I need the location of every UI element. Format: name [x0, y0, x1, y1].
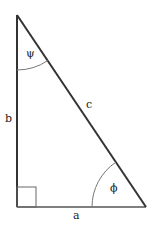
right-triangle-diagram: ψ b c ϕ a	[0, 0, 155, 227]
label-phi: ϕ	[110, 182, 118, 195]
label-psi: ψ	[26, 47, 35, 60]
label-a: a	[73, 209, 80, 222]
label-b: b	[5, 112, 12, 125]
angle-psi-arc	[17, 61, 48, 70]
right-angle-marker	[17, 187, 36, 207]
side-c-hypotenuse-line	[17, 15, 146, 207]
label-c: c	[86, 98, 92, 111]
